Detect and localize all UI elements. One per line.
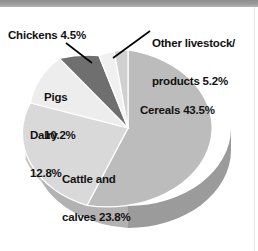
label-chickens: Chickens 4.5% [8,29,86,42]
label-cattle-and-calves: Cattle and calves 23.8% [62,148,131,236]
label-other-livestock-line2: products 5.2% [152,75,235,88]
label-dairy: Dairy 12.8% [30,104,62,192]
label-pigs-line1: Pigs [44,91,76,104]
label-other-livestock-line1: Other livestock/ [152,37,235,50]
label-cattle-line1: Cattle and [62,173,131,186]
label-other-livestock: Other livestock/ products 5.2% [152,12,235,100]
label-cattle-line2: calves 23.8% [62,211,131,224]
label-cereals: Cereals 43.5% [140,104,215,117]
label-dairy-line2: 12.8% [30,167,62,180]
label-dairy-line1: Dairy [30,129,62,142]
